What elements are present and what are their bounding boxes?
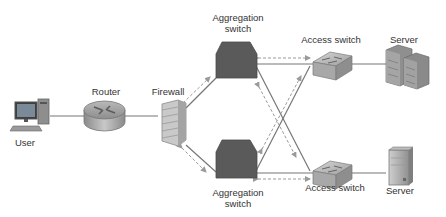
server-top-label: Server xyxy=(384,34,424,45)
aggregation-switch-bottom-label-line1: Aggregation xyxy=(206,187,270,198)
link-firewall-agg-bottom xyxy=(186,145,216,172)
router-label: Router xyxy=(86,86,126,97)
access-switch-top-icon xyxy=(313,52,352,80)
access-switch-bottom-label: Access switch xyxy=(300,182,370,193)
aggregation-switch-bottom-label: Aggregation switch xyxy=(206,187,270,209)
desktop-computer-icon xyxy=(10,99,49,131)
flow-arrow-agg-top-access-bottom xyxy=(259,87,296,157)
aggregation-switch-top-label: Aggregation switch xyxy=(206,12,270,34)
firewall-label: Firewall xyxy=(146,86,190,97)
server-rack-icon xyxy=(386,45,429,89)
link-firewall-agg-top xyxy=(186,78,216,108)
server-tower-icon xyxy=(389,147,413,185)
firewall-icon xyxy=(162,100,186,146)
router-icon xyxy=(84,101,125,131)
aggregation-switch-top-label-line2: switch xyxy=(206,23,270,34)
access-switch-top-label: Access switch xyxy=(296,34,366,45)
aggregation-switch-bottom-label-line2: switch xyxy=(206,198,270,209)
aggregation-switch-top-icon xyxy=(216,42,257,78)
aggregation-switch-top-label-line1: Aggregation xyxy=(206,12,270,23)
user-label: User xyxy=(10,137,40,148)
flow-arrow-agg-bottom-access-top xyxy=(262,76,301,149)
aggregation-switch-bottom-icon xyxy=(216,140,257,178)
server-bottom-label: Server xyxy=(380,185,420,196)
